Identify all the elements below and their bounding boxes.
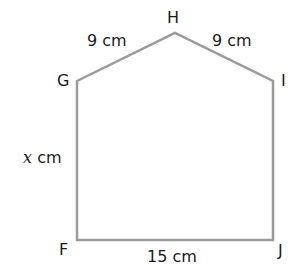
vertex-label-f: F (59, 242, 68, 258)
pentagon-shape (0, 0, 299, 277)
pentagon-diagram: H G I F J 9 cm 9 cm x cm 15 cm (0, 0, 299, 277)
side-label-hi: 9 cm (212, 33, 252, 49)
side-label-fg-unit: cm (37, 148, 61, 167)
side-label-fg-variable: x (23, 148, 32, 167)
vertex-label-g: G (57, 73, 69, 89)
pentagon-outline (77, 33, 273, 240)
side-label-fg: x cm (23, 150, 62, 166)
vertex-label-j: J (278, 243, 283, 259)
side-label-fj: 15 cm (147, 249, 197, 265)
side-label-gh: 9 cm (87, 33, 127, 49)
vertex-label-i: I (281, 73, 286, 89)
vertex-label-h: H (167, 10, 179, 26)
